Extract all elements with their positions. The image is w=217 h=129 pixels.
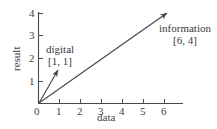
- information-coords-label: [6, 4]: [173, 35, 197, 46]
- x-axis-ticks: [60, 99, 165, 104]
- information-label: information: [159, 23, 211, 34]
- digital-coords-label: [1, 1]: [48, 56, 72, 67]
- x-tick-label-2: 2: [77, 106, 83, 117]
- plot-canvas: [0, 0, 217, 129]
- x-axis-title: data: [97, 112, 115, 123]
- vector-diagram-figure: 0 1 2 3 4 5 6 1 2 3 4 data result digita…: [0, 0, 217, 129]
- y-tick-label-4: 4: [29, 8, 35, 19]
- x-tick-label-6: 6: [161, 106, 167, 117]
- x-tick-label-5: 5: [140, 106, 146, 117]
- y-tick-label-1: 1: [29, 76, 35, 87]
- y-axis-ticks: [39, 14, 44, 82]
- digital-vector-arrow: [39, 70, 58, 103]
- digital-label: digital: [46, 44, 74, 55]
- y-tick-label-3: 3: [29, 30, 35, 41]
- x-tick-label-1: 1: [56, 106, 62, 117]
- y-axis-title: result: [11, 47, 22, 71]
- x-tick-label-0: 0: [34, 106, 40, 117]
- y-tick-label-2: 2: [29, 53, 35, 64]
- x-tick-label-4: 4: [119, 106, 125, 117]
